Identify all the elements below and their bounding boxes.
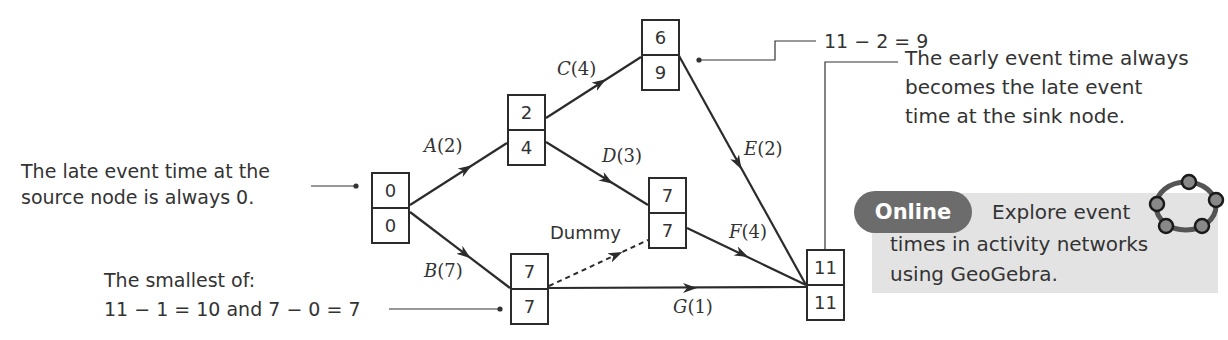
- online-text-line3: using GeoGebra.: [890, 258, 1058, 290]
- activity-label-a: A(2): [424, 135, 463, 156]
- early-time: 7: [650, 179, 685, 214]
- node-3: 6 9: [641, 19, 680, 91]
- node5-annotation: The smallest of: 11 − 1 = 10 and 7 − 0 =…: [104, 266, 361, 324]
- online-text-line2: times in activity networks: [890, 228, 1148, 260]
- early-time: 2: [509, 96, 544, 131]
- node-source: 0 0: [371, 172, 410, 244]
- late-time: 7: [650, 214, 685, 247]
- source-annotation: The late event time at the source node i…: [21, 158, 270, 210]
- activity-label-f: F(4): [729, 221, 767, 242]
- late-time: 0: [373, 209, 408, 242]
- online-text-line1: Explore event: [992, 196, 1130, 228]
- sink-annotation: The early event time always becomes the …: [905, 44, 1189, 131]
- early-time: 6: [643, 21, 678, 56]
- activity-label-c: C(4): [557, 58, 596, 79]
- activity-network-figure: 0 0 2 4 6 9 7 7 7 7 11 11 A(2) B(7) C(4)…: [0, 0, 1228, 340]
- early-time: 11: [808, 251, 843, 286]
- activity-label-b: B(7): [424, 260, 463, 281]
- late-time: 9: [643, 56, 678, 89]
- node-4: 7 7: [648, 177, 687, 249]
- online-badge[interactable]: Online: [854, 191, 972, 233]
- early-time: 7: [512, 255, 547, 290]
- dummy-label: Dummy: [550, 222, 621, 243]
- node-sink: 11 11: [806, 249, 845, 321]
- edge-e: [678, 54, 806, 285]
- geogebra-icon: [1146, 170, 1228, 240]
- late-time: 7: [512, 290, 547, 323]
- edge-g: [549, 287, 806, 288]
- early-time: 0: [373, 174, 408, 209]
- activity-label-e: E(2): [744, 138, 783, 159]
- node-2: 2 4: [507, 94, 546, 166]
- late-time: 4: [509, 131, 544, 164]
- node-5: 7 7: [510, 253, 549, 325]
- late-time: 11: [808, 286, 843, 319]
- edge-dummy: [549, 240, 648, 286]
- activity-label-g: G(1): [673, 296, 713, 317]
- activity-label-d: D(3): [602, 145, 642, 166]
